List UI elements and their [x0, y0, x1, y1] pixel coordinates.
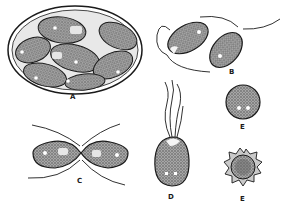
label-e-round: E [240, 123, 245, 131]
conjugating-cells-c [28, 124, 128, 185]
zygospore-e-round [226, 85, 260, 119]
illustration [0, 0, 288, 208]
zygospore-e-spiny [224, 148, 262, 186]
label-b: B [229, 68, 234, 76]
sporangium-colony-a [8, 6, 142, 94]
label-c: C [77, 177, 82, 185]
label-e-spiny: E [240, 195, 245, 203]
label-d: D [168, 193, 174, 201]
gametes-pair-b [157, 16, 280, 74]
quadriflagellate-zygote-d [155, 80, 189, 186]
label-a: A [70, 93, 75, 101]
